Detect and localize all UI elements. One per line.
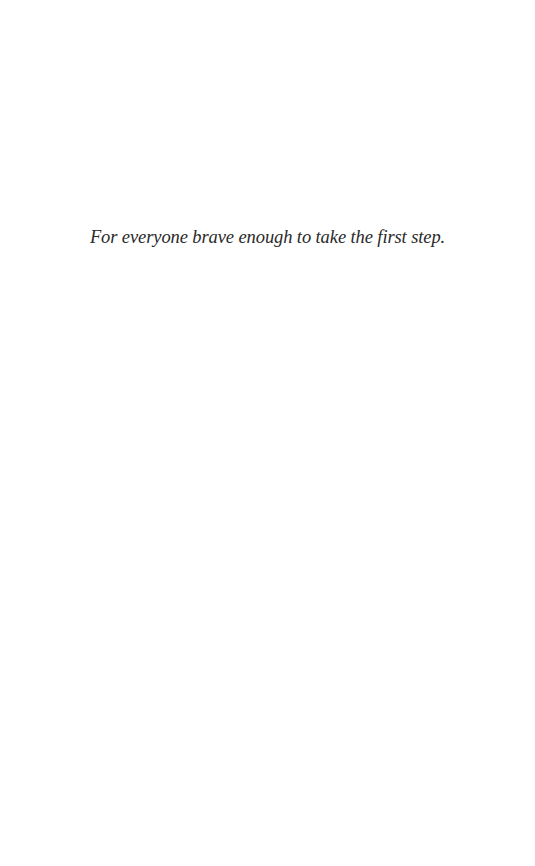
dedication-page: For everyone brave enough to take the fi… [0,0,535,866]
dedication-text: For everyone brave enough to take the fi… [0,227,535,248]
